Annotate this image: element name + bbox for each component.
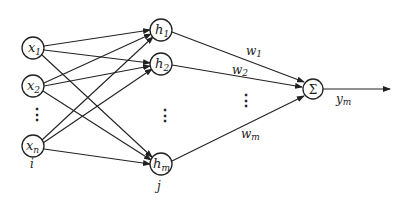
input-hidden-connections — [42, 30, 153, 164]
weight-label-2: w2 — [232, 63, 248, 78]
hidden-ellipsis: ⋮ — [157, 106, 173, 125]
weight-label-1: w1 — [246, 44, 262, 59]
hidden-node-1: h1 — [150, 19, 172, 41]
hidden-node-m: hm — [150, 153, 172, 175]
sigma-icon: Σ — [309, 83, 317, 97]
weight-ellipsis: ⋮ — [238, 91, 254, 110]
input-node-2: x2 — [22, 75, 44, 97]
input-node-1: x1 — [22, 37, 44, 59]
hidden-index-label: j — [154, 179, 161, 193]
hidden-node-2: h2 — [150, 53, 172, 75]
input-node-n: xn — [22, 135, 44, 157]
output-label: ym — [335, 92, 351, 107]
input-ellipsis: ⋮ — [29, 105, 45, 124]
input-index-label: i — [30, 157, 34, 171]
weight-label-m: wm — [241, 127, 260, 142]
network-diagram: x1 x2 ⋮ xn i h1 h2 ⋮ hm j w1 w2 ⋮ wm Σ y… — [0, 0, 407, 204]
summation-node: Σ — [303, 79, 323, 99]
